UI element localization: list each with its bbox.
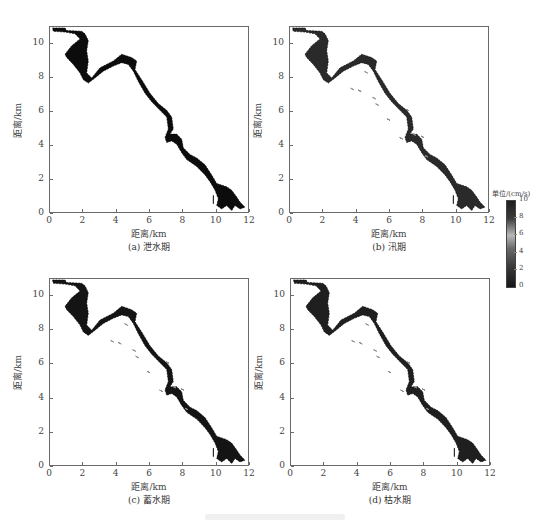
x-tick-label: 8 (172, 215, 192, 225)
y-tick-mark (291, 398, 294, 399)
y-tick-mark (50, 329, 53, 330)
y-tick-label: 4 (28, 392, 44, 402)
colorbar (506, 200, 516, 288)
y-tick-label: 2 (268, 173, 284, 183)
x-tick-mark (182, 462, 183, 465)
x-tick-label: 4 (106, 215, 126, 225)
x-tick-mark (390, 462, 391, 465)
colorbar-tick-label: 0 (519, 281, 523, 289)
x-tick-mark (490, 462, 491, 465)
x-tick-label: 6 (139, 468, 159, 478)
y-tick-label: 10 (268, 37, 284, 47)
plot-area-b (289, 26, 489, 213)
y-tick-label: 2 (28, 426, 44, 436)
panel-caption: (b) 汛期 (329, 240, 449, 253)
y-tick-mark (291, 466, 294, 467)
y-tick-mark (291, 432, 294, 433)
x-tick-label: 6 (139, 215, 159, 225)
y-tick-mark (290, 145, 293, 146)
x-tick-label: 2 (72, 215, 92, 225)
x-tick-mark (356, 209, 357, 212)
y-tick-mark (291, 329, 294, 330)
y-tick-mark (290, 77, 293, 78)
x-tick-mark (149, 209, 150, 212)
y-tick-mark (290, 179, 293, 180)
velocity-field-map (291, 279, 491, 467)
x-tick-label: 8 (413, 468, 433, 478)
x-tick-label: 10 (446, 215, 466, 225)
x-axis-label: 距离/km (350, 480, 430, 493)
y-tick-mark (50, 213, 53, 214)
x-tick-mark (116, 209, 117, 212)
x-tick-mark (216, 209, 217, 212)
x-tick-mark (82, 462, 83, 465)
x-tick-mark (249, 209, 250, 212)
y-tick-label: 0 (269, 460, 285, 470)
y-tick-label: 8 (28, 71, 44, 81)
y-tick-mark (50, 111, 53, 112)
plot-area-a (49, 26, 249, 213)
x-tick-mark (323, 462, 324, 465)
y-tick-label: 2 (28, 173, 44, 183)
y-axis-label: 距离/km (11, 90, 24, 150)
x-tick-label: 12 (480, 468, 500, 478)
y-tick-label: 10 (269, 289, 285, 299)
colorbar-tick-mark (514, 269, 517, 270)
x-axis-label: 距离/km (349, 227, 429, 240)
y-tick-mark (50, 363, 53, 364)
y-tick-label: 6 (268, 105, 284, 115)
y-tick-label: 10 (28, 289, 44, 299)
x-tick-mark (216, 462, 217, 465)
y-tick-label: 0 (28, 460, 44, 470)
x-tick-label: 12 (239, 215, 259, 225)
y-tick-label: 4 (269, 392, 285, 402)
x-axis-label: 距离/km (109, 227, 189, 240)
x-axis-label: 距离/km (109, 480, 189, 493)
colorbar-tick-label: 4 (519, 247, 523, 255)
y-tick-label: 8 (269, 323, 285, 333)
x-tick-label: 4 (106, 468, 126, 478)
y-tick-label: 0 (28, 207, 44, 217)
x-tick-label: 6 (379, 215, 399, 225)
x-tick-mark (389, 209, 390, 212)
y-tick-label: 8 (268, 71, 284, 81)
x-tick-mark (149, 462, 150, 465)
y-tick-mark (291, 295, 294, 296)
x-tick-mark (423, 462, 424, 465)
y-axis-label: 距离/km (251, 90, 264, 150)
x-tick-mark (82, 209, 83, 212)
y-tick-mark (50, 432, 53, 433)
x-tick-mark (49, 462, 50, 465)
y-axis-label: 距离/km (252, 343, 265, 403)
y-tick-label: 8 (28, 323, 44, 333)
y-tick-mark (290, 111, 293, 112)
colorbar-tick-label: 10 (519, 195, 528, 203)
y-tick-label: 6 (28, 105, 44, 115)
y-tick-mark (50, 398, 53, 399)
x-tick-label: 2 (72, 468, 92, 478)
x-tick-mark (457, 462, 458, 465)
colorbar-tick-mark (514, 234, 517, 235)
y-tick-label: 2 (269, 426, 285, 436)
y-tick-label: 4 (28, 139, 44, 149)
velocity-field-map (50, 279, 250, 467)
x-tick-label: 12 (239, 468, 259, 478)
colorbar-tick-label: 8 (519, 212, 523, 220)
figure-caption-faint (205, 514, 345, 520)
y-tick-mark (291, 363, 294, 364)
x-tick-mark (249, 462, 250, 465)
colorbar-tick-label: 6 (519, 229, 523, 237)
y-tick-mark (50, 179, 53, 180)
panel-caption: (d) 枯水期 (330, 493, 450, 506)
x-tick-label: 4 (346, 215, 366, 225)
y-tick-label: 4 (268, 139, 284, 149)
y-tick-mark (50, 466, 53, 467)
y-tick-label: 6 (28, 357, 44, 367)
y-tick-mark (290, 43, 293, 44)
x-tick-mark (357, 462, 358, 465)
panel-caption: (c) 蓄水期 (89, 493, 209, 506)
y-tick-mark (50, 77, 53, 78)
colorbar-tick-mark (514, 252, 517, 253)
y-tick-mark (290, 213, 293, 214)
velocity-field-map (50, 27, 250, 214)
